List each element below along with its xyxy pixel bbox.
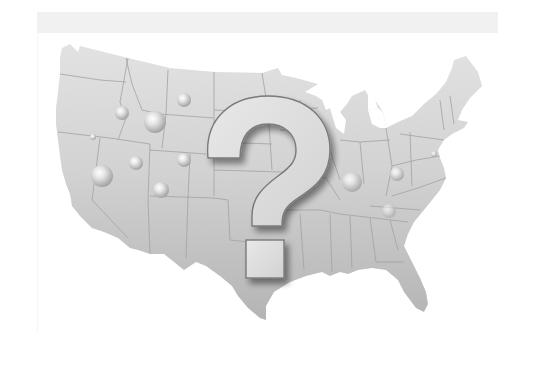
illustration-canvas: US map with question mark ?	[0, 0, 547, 367]
sphere-marker	[177, 93, 191, 107]
sphere-marker	[90, 134, 96, 140]
sphere-marker	[390, 167, 404, 181]
sphere-marker	[153, 182, 169, 198]
sphere-marker	[129, 156, 143, 170]
sphere-marker	[431, 151, 437, 157]
sphere-marker	[115, 106, 129, 120]
us-map-illustration	[0, 0, 547, 367]
sphere-marker	[342, 172, 362, 192]
sphere-marker	[91, 165, 113, 187]
sphere-marker	[144, 111, 166, 133]
sphere-marker	[177, 153, 191, 167]
sphere-marker	[382, 204, 396, 218]
